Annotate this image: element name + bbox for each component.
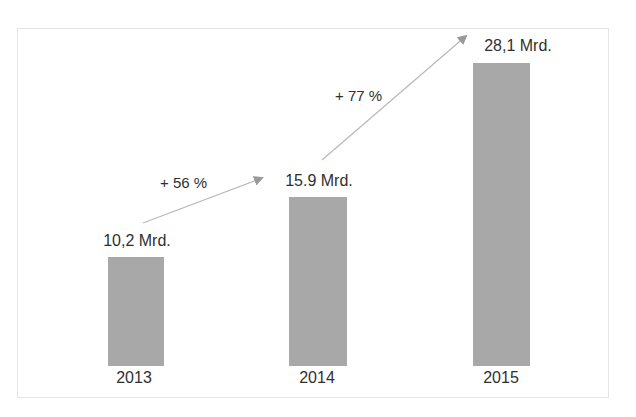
value-label-2014: 15.9 Mrd. — [285, 172, 353, 190]
value-label-2015: 28,1 Mrd. — [484, 37, 552, 55]
growth-label-2014-2015: + 77 % — [335, 87, 382, 104]
category-label-2013: 2013 — [116, 369, 152, 387]
value-label-2013: 10,2 Mrd. — [103, 232, 171, 250]
bar-2013 — [108, 257, 164, 366]
bar-2015 — [473, 63, 530, 366]
category-label-2015: 2015 — [483, 369, 519, 387]
growth-label-2013-2014: + 56 % — [160, 174, 207, 191]
bar-2014 — [289, 197, 347, 366]
category-label-2014: 2014 — [299, 369, 335, 387]
